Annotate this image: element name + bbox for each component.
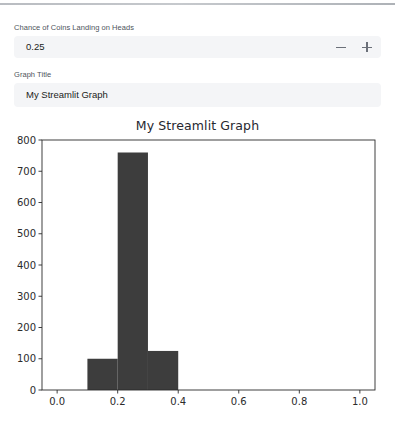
y-tick-label: 100: [17, 353, 36, 364]
y-tick-label: 800: [17, 135, 36, 146]
x-tick-label: 0.0: [49, 396, 65, 407]
histogram-bar: [118, 153, 148, 391]
x-tick-label: 1.0: [352, 396, 368, 407]
chart-title: My Streamlit Graph: [0, 118, 395, 133]
histogram-bar: [148, 351, 178, 390]
graph-title-label: Graph Title: [14, 70, 381, 80]
x-tick-label: 0.6: [231, 396, 247, 407]
plot-frame: [42, 140, 375, 390]
y-tick-label: 500: [17, 228, 36, 239]
x-tick-label: 0.4: [170, 396, 186, 407]
heads-chance-widget: Chance of Coins Landing on Heads 0.25: [14, 23, 381, 58]
graph-title-input[interactable]: My Streamlit Graph: [14, 83, 381, 107]
graph-title-widget: Graph Title My Streamlit Graph: [14, 70, 381, 107]
histogram-bar: [87, 359, 117, 390]
y-tick-label: 700: [17, 166, 36, 177]
graph-title-value: My Streamlit Graph: [14, 83, 108, 107]
x-tick-label: 0.8: [291, 396, 307, 407]
heads-chance-value: 0.25: [14, 36, 45, 58]
minus-icon[interactable]: [335, 41, 347, 53]
heads-chance-steppers: [335, 36, 373, 58]
plus-icon[interactable]: [361, 41, 373, 53]
top-decoration-bar: [0, 3, 395, 5]
y-tick-label: 200: [17, 322, 36, 333]
chart-svg: 01002003004005006007008000.00.20.40.60.8…: [0, 113, 395, 428]
y-tick-label: 400: [17, 260, 36, 271]
histogram-chart: My Streamlit Graph 010020030040050060070…: [0, 113, 395, 428]
streamlit-app: Chance of Coins Landing on Heads 0.25 Gr…: [0, 0, 395, 428]
heads-chance-input[interactable]: 0.25: [14, 36, 381, 58]
heads-chance-label: Chance of Coins Landing on Heads: [14, 23, 381, 33]
y-tick-label: 600: [17, 197, 36, 208]
y-tick-label: 0: [30, 385, 36, 396]
x-tick-label: 0.2: [110, 396, 126, 407]
y-tick-label: 300: [17, 291, 36, 302]
